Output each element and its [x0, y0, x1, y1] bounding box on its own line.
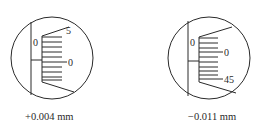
- caption-left-reading: +0.004 mm: [25, 111, 74, 122]
- sleeve-label-zero-left: 0: [33, 37, 38, 48]
- sleeve-label-zero-right: 0: [190, 37, 195, 48]
- thimble-scale-right: [199, 38, 223, 79]
- thimble-label-zero-left: 0: [68, 57, 73, 68]
- micrometer-view-left: [11, 17, 93, 99]
- thimble-bevel-upper-right: [199, 27, 232, 37]
- thimble-label-five-left: 5: [66, 25, 71, 36]
- thimble-label-zero-right: 0: [224, 47, 229, 58]
- micrometer-zero-error-diagram: 0 5 0 0: [0, 0, 263, 131]
- thimble-label-45-right: 45: [224, 74, 234, 85]
- caption-right-reading: −0.011 mm: [188, 111, 236, 122]
- thimble-scale-left: [42, 37, 67, 80]
- thimble-bevel-upper-left: [42, 27, 69, 36]
- thimble-bevel-lower-left: [42, 82, 74, 92]
- micrometer-view-right: [168, 17, 250, 99]
- view-circle-right: [168, 17, 250, 99]
- view-circle-left: [11, 17, 93, 99]
